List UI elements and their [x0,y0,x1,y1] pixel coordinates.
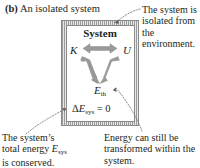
delta-symbol: Δ [72,103,79,114]
thermal-energy-label: Eth [62,84,138,96]
figure-caption-label: (b) [5,3,18,14]
annotation-conserved-energy-subscript: sys [58,148,67,156]
annotation-energy-transformed: Energy can still be transformed within t… [104,132,200,166]
figure-caption: (b) An isolated system [5,3,100,15]
system-title: System [62,27,138,39]
system-energy-equation: ΔEsys = 0 [72,103,111,114]
annotation-conserved-energy-symbol: E [52,143,58,154]
potential-energy-label: U [123,44,131,56]
figure-caption-text: An isolated system [20,3,100,14]
energy-subscript: sys [85,108,94,116]
annotation-conserved-line3: is conserved. [2,157,54,168]
annotation-energy-conserved: The system’s total energy Esys is conser… [2,132,98,168]
annotation-isolated-from-environment: The system is isolated from the environm… [142,4,200,50]
thermal-energy-subscript: th [101,90,106,98]
annotation-conserved-line2-prefix: total energy [2,143,52,154]
thermal-energy-symbol: E [94,84,101,96]
kinetic-energy-label: K [70,44,77,56]
annotation-conserved-line1: The system’s [2,132,55,143]
isolated-system-figure: (b) An isolated system System K U Eth ΔE… [0,0,200,168]
equation-rhs: = 0 [97,103,111,114]
leader-bottom-left-icon [26,108,66,134]
